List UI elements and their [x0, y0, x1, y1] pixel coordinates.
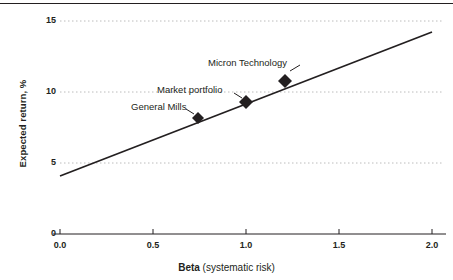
xtick-label-0.5: 0.5 — [133, 240, 173, 250]
annotation-general-mills: General Mills — [131, 101, 186, 112]
leader-market-portfolio — [234, 93, 242, 98]
x-axis-title-bold: Beta — [178, 262, 200, 273]
xtick-label-0.0: 0.0 — [40, 240, 80, 250]
datapoint-micron-technology[interactable] — [278, 74, 292, 88]
security-market-line-plot — [0, 0, 453, 280]
chart-figure: 15 10 5 0 0.0 0.5 1.0 1.5 2.0 General Mi… — [0, 0, 453, 280]
xtick-label-2.0: 2.0 — [412, 240, 452, 250]
xtick-label-1.5: 1.5 — [319, 240, 359, 250]
annotation-market-portfolio: Market portfolio — [157, 84, 222, 95]
annotation-micron-technology: Micron Technology — [208, 57, 287, 68]
leader-micron-technology — [290, 65, 300, 71]
y-axis-title: Expected return, % — [17, 54, 28, 194]
ytick-label-0: 0 — [22, 228, 56, 238]
x-axis-title-rest: (systematic risk) — [200, 262, 275, 273]
ytick-label-15: 15 — [22, 15, 56, 25]
x-axis-title: Beta (systematic risk) — [0, 262, 453, 273]
xtick-label-1.0: 1.0 — [226, 240, 266, 250]
leader-general-mills — [186, 109, 194, 114]
